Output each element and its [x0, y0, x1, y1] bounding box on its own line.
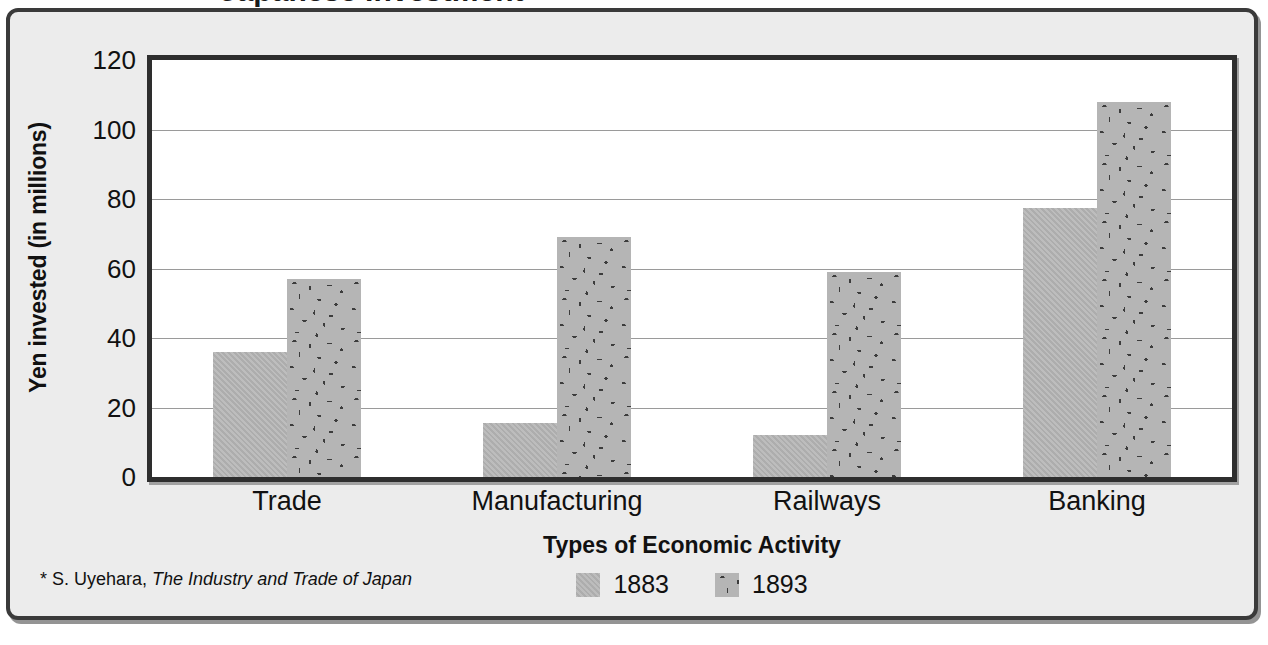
chart-panel: Yen invested (in millions) 1201008060402…	[6, 8, 1258, 620]
y-axis-title: Yen invested (in millions)	[25, 78, 52, 438]
bar-group-manufacturing	[422, 60, 692, 477]
cut-off-title-text: Japanese Investment	[220, 0, 523, 7]
bar-manufacturing-1893[interactable]	[557, 237, 631, 477]
y-axis-tick-100: 100	[66, 117, 136, 143]
x-axis-label-manufacturing: Manufacturing	[471, 486, 642, 517]
y-axis-tick-labels: 120100806040200	[66, 44, 136, 484]
y-axis-tick-20: 20	[66, 395, 136, 421]
bar-railways-1893[interactable]	[827, 272, 901, 477]
x-axis-label-trade: Trade	[252, 486, 322, 517]
x-axis-category-labels: TradeManufacturingRailwaysBanking	[147, 486, 1237, 526]
x-axis-label-railways: Railways	[773, 486, 881, 517]
plot-area	[152, 60, 1232, 477]
x-axis-title: Types of Economic Activity	[147, 532, 1237, 559]
legend-item-1893[interactable]: 1893	[715, 570, 808, 599]
bar-railways-1883[interactable]	[753, 435, 827, 477]
source-citation: * S. Uyehara, The Industry and Trade of …	[40, 569, 412, 590]
bar-group-banking	[962, 60, 1232, 477]
x-axis-label-banking: Banking	[1048, 486, 1146, 517]
y-axis-tick-120: 120	[66, 47, 136, 73]
bar-banking-1893[interactable]	[1097, 102, 1171, 477]
bar-group-railways	[692, 60, 962, 477]
citation-source-title: The Industry and Trade of Japan	[152, 569, 412, 589]
legend-swatch-1883	[576, 573, 600, 597]
legend-swatch-1893	[715, 573, 739, 597]
bar-banking-1883[interactable]	[1023, 208, 1097, 477]
y-axis-tick-0: 0	[66, 464, 136, 490]
plot-frame	[147, 55, 1237, 482]
legend-label-1883: 1883	[613, 570, 669, 599]
legend-item-1883[interactable]: 1883	[576, 570, 669, 599]
bar-group-trade	[152, 60, 422, 477]
citation-prefix: * S. Uyehara,	[40, 569, 147, 589]
y-axis-tick-60: 60	[66, 256, 136, 282]
y-axis-tick-80: 80	[66, 186, 136, 212]
bar-trade-1883[interactable]	[213, 352, 287, 477]
bar-manufacturing-1883[interactable]	[483, 423, 557, 477]
legend-label-1893: 1893	[752, 570, 808, 599]
bar-series-container	[152, 60, 1232, 477]
bar-trade-1893[interactable]	[287, 279, 361, 477]
cut-off-title: Japanese Investment	[0, 0, 1268, 7]
y-axis-tick-40: 40	[66, 325, 136, 351]
